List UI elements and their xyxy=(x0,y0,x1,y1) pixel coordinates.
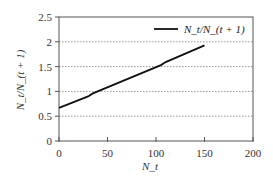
plot-area-frame xyxy=(59,17,253,141)
x-tick-label: 0 xyxy=(56,147,62,159)
legend: N_t/N_(t + 1) xyxy=(154,23,245,36)
y-tick-label: 2 xyxy=(47,36,53,48)
x-tick-label: 200 xyxy=(245,147,262,159)
x-axis: 050100150200 xyxy=(56,137,262,159)
x-tick-label: 150 xyxy=(196,147,213,159)
line-chart: 00.511.522.5 050100150200 N_t/N_(t + 1) … xyxy=(0,0,273,186)
grid-lines xyxy=(59,42,253,116)
y-tick-label: 0.5 xyxy=(38,110,52,122)
x-tick-label: 50 xyxy=(102,147,114,159)
y-tick-label: 1 xyxy=(47,85,53,97)
legend-label: N_t/N_(t + 1) xyxy=(183,23,245,36)
y-tick-label: 1.5 xyxy=(38,61,52,73)
y-axis-label: N_t/N_(t + 1) xyxy=(14,49,27,111)
x-tick-label: 100 xyxy=(148,147,165,159)
series-line xyxy=(59,45,205,108)
y-tick-label: 0 xyxy=(47,135,53,147)
y-axis: 00.511.522.5 xyxy=(38,11,59,147)
x-axis-label: N_t xyxy=(141,160,159,172)
y-tick-label: 2.5 xyxy=(38,11,52,23)
